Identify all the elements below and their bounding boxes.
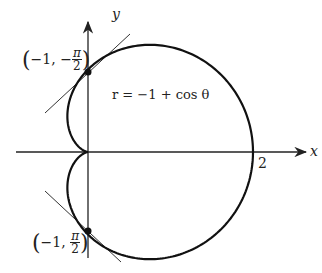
point-top-label: (−1, −π2) [22, 47, 90, 72]
y-axis-label: y [112, 6, 120, 22]
x-tick-label: 2 [258, 155, 267, 171]
cardioid-diagram: y x 2 r = −1 + cos θ (−1, −π2) (−1, π2) [0, 0, 322, 273]
point-bottom-label: (−1, π2) [32, 230, 89, 255]
x-axis-label: x [310, 143, 318, 159]
equation-label: r = −1 + cos θ [112, 87, 209, 102]
